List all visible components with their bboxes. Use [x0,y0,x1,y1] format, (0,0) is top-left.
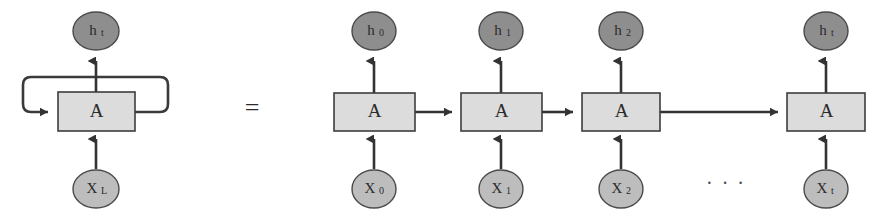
step-0-input-node-sub: 0 [379,185,384,196]
step-2-input-node-sub: 2 [626,185,631,196]
folded-output-node-base: h [89,22,97,38]
folded-cell-label: A [90,100,104,121]
step-2-input-node-base: X [612,180,623,196]
unrolled-step-0: A h 0 X 0 [334,12,415,208]
step-t-output-node-base: h [819,22,827,38]
equals-sign: = [245,93,260,122]
step-t-output-node-sub: t [831,27,834,38]
step-t-cell-label: A [820,100,834,121]
step-2-cell-label: A [615,100,629,121]
diagram-canvas: A h t X L = A h [0,0,891,218]
step-t-input-node-base: X [817,180,828,196]
step-0-cell-label: A [368,100,382,121]
step-1-cell-label: A [495,100,509,121]
unrolled-step-t: A h t X t [787,12,865,208]
folded-output-node-sub: t [101,27,104,38]
folded-rnn-group: A h t X L [23,12,168,208]
step-0-output-node-base: h [367,22,375,38]
unrolled-rnn-group: A h 0 X 0 A h 1 X 1 [334,12,865,208]
unrolled-step-1: A h 1 X 1 [461,12,542,208]
rnn-diagram: A h t X L = A h [0,0,891,218]
unrolled-step-2: A h 2 X 2 [582,12,660,208]
folded-input-node-base: X [87,180,98,196]
step-2-output-node-sub: 2 [626,27,631,38]
time-steps-ellipsis: · · · [706,172,746,194]
step-0-output-node-sub: 0 [379,27,384,38]
step-0-input-node-base: X [365,180,376,196]
step-2-output-node-base: h [614,22,622,38]
step-t-input-node-sub: t [831,185,834,196]
step-1-input-node-base: X [492,180,503,196]
step-1-output-node-sub: 1 [506,27,511,38]
step-1-output-node-base: h [494,22,502,38]
step-1-input-node-sub: 1 [506,185,511,196]
folded-input-node-sub: L [101,185,107,196]
